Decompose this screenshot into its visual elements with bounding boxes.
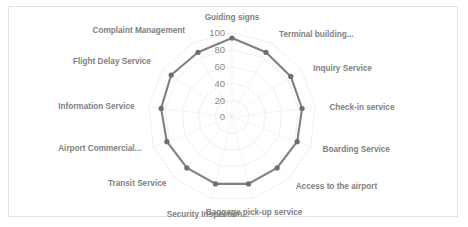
data-point-2 [288, 74, 293, 79]
data-point-10 [159, 106, 164, 111]
tick-label-0: 0 [220, 111, 225, 122]
data-point-6 [246, 181, 251, 186]
axis-label-information-service: Information Service [58, 102, 135, 111]
data-point-8 [184, 165, 189, 170]
tick-label-20: 20 [214, 95, 225, 106]
data-point-12 [195, 50, 200, 55]
data-point-3 [299, 106, 304, 111]
axis-label-flight-delay-service: Flight Delay Service [73, 57, 151, 66]
data-point-7 [213, 181, 218, 186]
data-point-0 [229, 35, 234, 40]
data-point-1 [263, 50, 268, 55]
tick-label-80: 80 [214, 44, 225, 55]
data-point-4 [295, 139, 300, 144]
data-point-11 [169, 72, 174, 77]
axis-category-labels: Guiding signsTerminal building...Inquiry… [58, 13, 395, 219]
axis-label-check-in-service: Check-in service [329, 103, 395, 112]
tick-label-40: 40 [214, 78, 225, 89]
axis-label-terminal-building: Terminal building... [279, 30, 353, 39]
grid-spokes [149, 33, 316, 199]
axis-label-inquiry-service: Inquiry Service [313, 64, 372, 73]
grid-spoke-8 [176, 117, 232, 180]
axis-label-access-to-the-airport: Access to the airport [296, 182, 378, 191]
axis-label-complaint-management: Complaint Management [93, 26, 186, 35]
data-point-5 [275, 165, 280, 170]
axis-label-security-inspection: Security Inspection... [167, 210, 249, 219]
radar-chart: 020406080100 Guiding signsTerminal build… [0, 0, 468, 227]
axis-label-airport-commercial: Airport Commercial... [58, 144, 141, 153]
tick-label-100: 100 [209, 27, 225, 38]
grid-spoke-5 [232, 117, 288, 180]
axis-label-guiding-signs: Guiding signs [205, 13, 260, 22]
tick-label-60: 60 [214, 61, 225, 72]
axis-label-transit-service: Transit Service [108, 179, 167, 188]
data-point-9 [164, 139, 169, 144]
axis-label-boarding-service: Boarding Service [323, 145, 391, 154]
